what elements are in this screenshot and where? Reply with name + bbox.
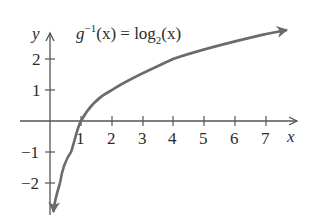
svg-text:3: 3 xyxy=(138,129,147,148)
svg-text:7: 7 xyxy=(261,129,270,148)
svg-text:1: 1 xyxy=(76,129,85,148)
svg-text:5: 5 xyxy=(199,129,208,148)
svg-text:1: 1 xyxy=(32,81,41,100)
svg-text:−1: −1 xyxy=(21,143,39,162)
log-curve-tail xyxy=(54,183,61,212)
function-label: g−1(x) = log2(x) xyxy=(76,22,181,46)
x-tick-labels: 1 2 3 4 5 6 7 xyxy=(76,129,270,148)
svg-text:2: 2 xyxy=(107,129,116,148)
x-axis-label: x xyxy=(286,127,295,146)
log-function-graph: 1 2 3 4 5 6 7 x 2 1 −1 −2 y g−1(x) = log… xyxy=(0,0,317,223)
svg-text:−2: −2 xyxy=(21,174,39,193)
log-curve xyxy=(60,30,287,183)
svg-text:6: 6 xyxy=(230,129,239,148)
svg-text:2: 2 xyxy=(32,50,41,69)
svg-text:4: 4 xyxy=(168,129,177,148)
y-axis-label: y xyxy=(30,24,40,43)
